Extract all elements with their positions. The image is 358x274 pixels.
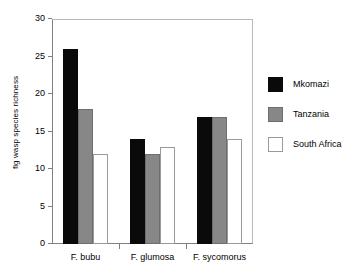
bar-f-glumosa-mkomazi xyxy=(130,139,145,244)
y-axis-tick-label: 15 xyxy=(35,126,45,136)
legend-label: South Africa xyxy=(293,139,342,150)
legend-item-mkomazi: Mkomazi xyxy=(268,76,329,93)
y-axis-tick-label: 0 xyxy=(40,238,45,248)
legend-label: Mkomazi xyxy=(293,79,329,90)
y-axis-tick-label: 25 xyxy=(35,51,45,61)
legend-label: Tanzania xyxy=(293,109,329,120)
y-axis-title-text: fig wasp species richness xyxy=(12,75,21,168)
legend-item-south-africa: South Africa xyxy=(268,136,342,153)
x-axis-tick-label: F. sycomorus xyxy=(175,252,265,263)
bar-f-sycomorus-south-africa xyxy=(227,139,242,244)
bar-f-bubu-tanzania xyxy=(78,109,93,244)
legend-swatch-icon xyxy=(268,137,283,152)
y-axis-tick-label: 5 xyxy=(40,201,45,211)
bar-f-glumosa-tanzania xyxy=(145,154,160,244)
y-axis-title: fig wasp species richness xyxy=(5,0,27,244)
bar-f-bubu-mkomazi xyxy=(63,49,78,244)
y-axis-tick-label: 20 xyxy=(35,88,45,98)
y-axis-tick-label: 10 xyxy=(35,163,45,173)
legend-swatch-icon xyxy=(268,77,283,92)
x-axis-tick-mark xyxy=(119,244,120,249)
bar-f-glumosa-south-africa xyxy=(160,147,175,245)
bar-f-sycomorus-mkomazi xyxy=(197,117,212,245)
y-axis-tick-label: 30 xyxy=(35,13,45,23)
bar-f-bubu-south-africa xyxy=(93,154,108,244)
bar-f-sycomorus-tanzania xyxy=(212,117,227,245)
legend-item-tanzania: Tanzania xyxy=(268,106,329,123)
legend-swatch-icon xyxy=(268,107,283,122)
x-axis-tick-mark xyxy=(186,244,187,249)
